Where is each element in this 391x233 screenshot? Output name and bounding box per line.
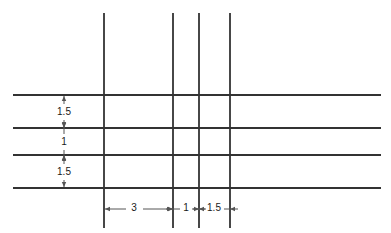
horizontal-dimension-label-1: 3	[131, 202, 137, 213]
vertical-dimension-1: 1.5	[57, 96, 71, 127]
vertical-dimension-label-1: 1.5	[57, 106, 71, 117]
arrow-down-icon	[62, 182, 66, 187]
horizontal-dimension-label-3: 1.5	[207, 202, 221, 213]
dimension-diagram: 1.5 1 1.5	[0, 0, 391, 233]
arrow-left-icon	[105, 207, 110, 211]
horizontal-dimension-chain: 3 1 1.5	[105, 202, 238, 213]
vertical-grid-lines	[104, 13, 230, 228]
horizontal-dimension-2: 1	[166, 202, 206, 213]
diagram-canvas: 1.5 1 1.5	[0, 0, 391, 233]
vertical-dimension-label-3: 1.5	[57, 166, 71, 177]
vertical-dimension-chain: 1.5 1 1.5	[57, 96, 71, 187]
horizontal-dimension-1: 3	[105, 202, 172, 213]
vertical-dimension-label-2: 1	[61, 136, 67, 147]
arrow-up-icon	[62, 156, 66, 161]
horizontal-dimension-label-2: 1	[183, 202, 189, 213]
vertical-dimension-3: 1.5	[57, 156, 71, 187]
arrow-up-icon	[62, 96, 66, 101]
